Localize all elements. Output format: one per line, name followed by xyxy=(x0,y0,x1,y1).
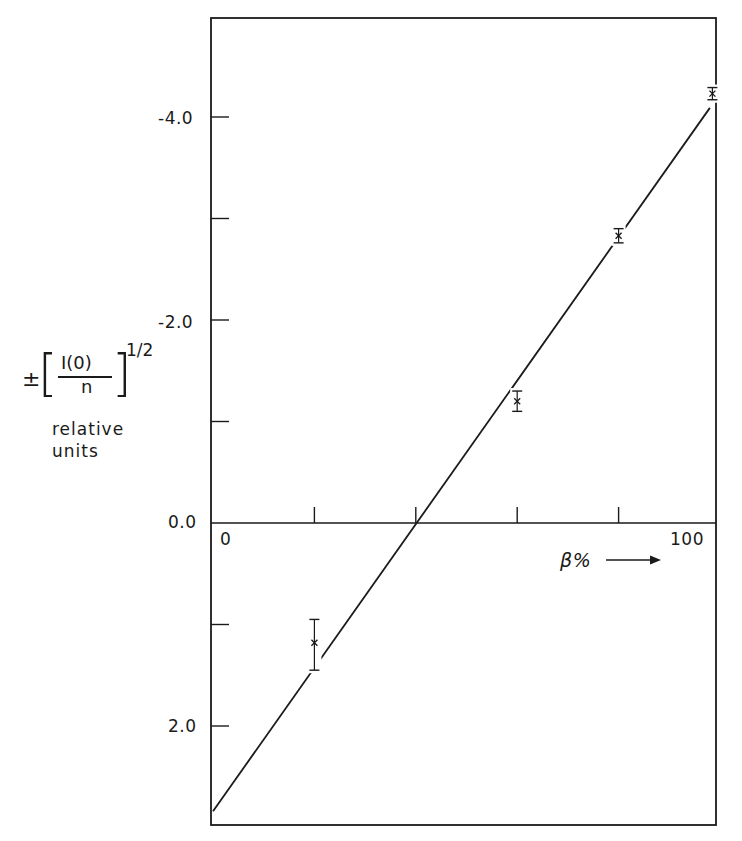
x-tick-label-0: 0 xyxy=(220,529,231,549)
numerator: I(0) xyxy=(61,352,92,373)
data-point xyxy=(705,85,719,103)
x-ticks xyxy=(314,507,618,523)
exponent: 1/2 xyxy=(126,340,153,360)
y-ticks xyxy=(211,117,229,726)
fit-line xyxy=(213,108,710,811)
x-axis-arrow-icon xyxy=(606,556,661,565)
data-point xyxy=(612,226,626,246)
y-tick-label-0: 0.0 xyxy=(168,512,197,532)
y-tick-label-2: 2.0 xyxy=(168,716,197,736)
y-tick-label-neg4: -4.0 xyxy=(158,108,193,128)
denominator: n xyxy=(81,376,92,397)
y-tick-label-neg2: -2.0 xyxy=(158,312,193,332)
data-point xyxy=(307,616,321,673)
x-tick-label-100: 100 xyxy=(670,529,704,549)
data-points xyxy=(307,85,719,674)
left-bracket: [ xyxy=(38,348,58,398)
plot-frame xyxy=(211,18,716,825)
units-label: relative units xyxy=(52,418,124,462)
data-point xyxy=(510,388,524,414)
x-axis-title: β% xyxy=(560,549,591,571)
